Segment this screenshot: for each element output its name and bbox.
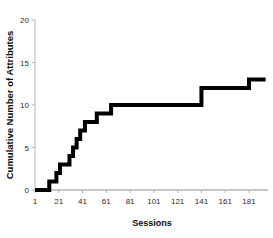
x-tick-label: 21: [54, 197, 63, 206]
x-tick-label: 41: [78, 197, 87, 206]
chart-figure: 05101520 121416181101121141161181 Cumula…: [0, 0, 273, 238]
x-tick-label: 141: [195, 197, 209, 206]
y-tick-label: 15: [20, 59, 29, 68]
x-tick-label: 1: [33, 197, 38, 206]
step-line-chart: 05101520 121416181101121141161181 Cumula…: [0, 0, 273, 238]
x-tick-label: 101: [147, 197, 161, 206]
x-tick-label: 61: [102, 197, 111, 206]
y-tick-label: 5: [25, 144, 30, 153]
y-tick-label: 20: [20, 16, 29, 25]
y-axis-title: Cumulative Number of Attributes: [4, 31, 15, 180]
y-tick-label: 0: [25, 186, 30, 195]
chart-background: [0, 0, 273, 238]
x-tick-label: 81: [126, 197, 135, 206]
x-tick-label: 181: [242, 197, 256, 206]
x-tick-label: 161: [219, 197, 233, 206]
x-axis-title: Sessions: [132, 218, 172, 228]
x-tick-label: 121: [171, 197, 185, 206]
y-tick-label: 10: [20, 101, 29, 110]
